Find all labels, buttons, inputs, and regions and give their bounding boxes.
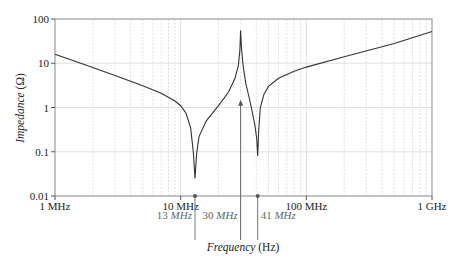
y-axis-ticks: 1001010.10.01 (30, 13, 55, 202)
y-axis-label: Impedance (Ω) (14, 73, 27, 144)
annotation-label: 13 MHz (157, 209, 193, 221)
annotation-label: 30 MHz (202, 209, 238, 221)
impedance-curve (55, 31, 432, 179)
y-tick-label: 0.1 (35, 146, 49, 158)
marker-dot-icon (193, 194, 197, 198)
y-tick-label: 1 (44, 102, 50, 114)
x-tick-label: 1 MHz (40, 200, 71, 212)
frequency-annotations: 13 MHz30 MHz41 MHz (157, 100, 297, 240)
x-axis-label: Frequency (Hz) (206, 241, 280, 254)
annotation-label: 41 MHz (261, 209, 297, 221)
grid-lines (55, 19, 432, 196)
y-tick-label: 100 (33, 13, 50, 25)
y-tick-label: 10 (38, 57, 50, 69)
marker-dot-icon (256, 194, 260, 198)
x-tick-label: 1 GHz (417, 200, 446, 212)
x-axis-ticks: 1 MHz10 MHz100 MHz1 GHz (40, 196, 447, 212)
arrow-up-icon (238, 100, 243, 106)
impedance-chart: 1001010.10.01 1 MHz10 MHz100 MHz1 GHz 13… (0, 0, 460, 267)
